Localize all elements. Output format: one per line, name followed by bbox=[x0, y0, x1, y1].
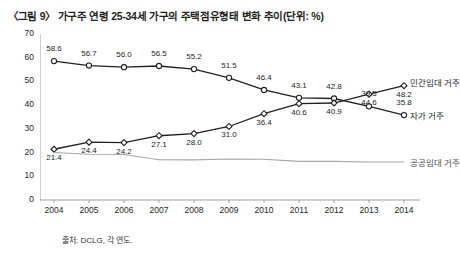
y-axis-tick-label: 40 bbox=[12, 99, 34, 109]
chart-plot-area: 0102030405060702004200520062007200820092… bbox=[40, 28, 420, 210]
y-axis-tick-label: 60 bbox=[12, 52, 34, 62]
x-axis-tick-label: 2007 bbox=[142, 205, 176, 215]
data-point-label: 36.4 bbox=[250, 118, 278, 127]
data-point-label: 44.6 bbox=[355, 98, 383, 107]
data-point-label: 24.2 bbox=[110, 147, 138, 156]
x-axis-tick-label: 2011 bbox=[282, 205, 316, 215]
x-axis-tick-label: 2013 bbox=[352, 205, 386, 215]
series-label: 민간임대 거주 bbox=[410, 76, 460, 88]
data-point-label: 43.1 bbox=[285, 81, 313, 90]
series-label: 자가 거주 bbox=[410, 109, 444, 121]
data-point-label: 46.4 bbox=[250, 73, 278, 82]
data-point-label: 40.9 bbox=[320, 107, 348, 116]
data-point-label: 56.7 bbox=[75, 49, 103, 58]
y-axis-tick-label: 10 bbox=[12, 170, 34, 180]
x-axis-tick-label: 2010 bbox=[247, 205, 281, 215]
data-point-label: 40.6 bbox=[285, 108, 313, 117]
x-axis-tick-label: 2004 bbox=[37, 205, 71, 215]
y-axis-tick-label: 70 bbox=[12, 28, 34, 38]
y-axis-tick-label: 0 bbox=[12, 194, 34, 204]
series-label: 공공임대 거주 bbox=[410, 156, 460, 168]
chart-source-note: 출처: DCLG, 각 연도. bbox=[62, 234, 133, 245]
data-point-label: 56.0 bbox=[110, 50, 138, 59]
data-point-label: 55.2 bbox=[180, 52, 208, 61]
x-axis-tick-label: 2005 bbox=[72, 205, 106, 215]
data-point-label: 56.5 bbox=[145, 49, 173, 58]
x-axis-tick-label: 2014 bbox=[387, 205, 421, 215]
x-axis-tick-label: 2006 bbox=[107, 205, 141, 215]
data-point-label: 21.4 bbox=[40, 153, 68, 162]
data-point-label: 24.4 bbox=[75, 146, 103, 155]
data-point-label: 31.0 bbox=[215, 130, 243, 139]
x-axis-tick-label: 2008 bbox=[177, 205, 211, 215]
data-point-label: 48.2 bbox=[390, 90, 418, 99]
chart-title: 〈그림 9〉 가구주 연령 25-34세 가구의 주택점유형태 변화 추이(단위… bbox=[8, 8, 324, 23]
y-axis-tick-label: 30 bbox=[12, 123, 34, 133]
data-point-label: 42.8 bbox=[320, 82, 348, 91]
y-axis-tick-label: 50 bbox=[12, 75, 34, 85]
data-point-label: 58.6 bbox=[40, 44, 68, 53]
y-axis-tick-label: 20 bbox=[12, 147, 34, 157]
data-point-label: 51.5 bbox=[215, 61, 243, 70]
data-point-label: 39.5 bbox=[355, 89, 383, 98]
data-point-label: 35.8 bbox=[390, 98, 418, 107]
data-point-label: 28.0 bbox=[180, 138, 208, 147]
x-axis-tick-label: 2009 bbox=[212, 205, 246, 215]
data-point-label: 27.1 bbox=[145, 140, 173, 149]
x-axis-tick-label: 2012 bbox=[317, 205, 351, 215]
